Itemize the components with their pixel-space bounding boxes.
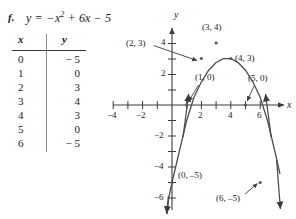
data-point-4-3 [229, 57, 232, 60]
table-row: 4 3 [12, 109, 90, 123]
cell-y: 0 [50, 123, 80, 135]
table-row: 3 4 [12, 95, 90, 109]
cell-y: 4 [50, 95, 80, 107]
xtick-label-minus2: −2 [136, 110, 146, 120]
x-axis [113, 101, 284, 109]
cell-y: 3 [50, 81, 80, 93]
table-header-row: x y [12, 33, 90, 50]
table-row: 2 3 [12, 81, 90, 95]
leading-minus-sign: − [46, 11, 55, 25]
ytick-label-minus2: −2 [154, 130, 164, 140]
minus-sign: − [93, 11, 102, 25]
data-point-1-0 [185, 103, 188, 106]
xtick-label-4: 4 [228, 110, 233, 120]
data-point-0-minus5 [171, 181, 174, 184]
value-table: x y 0 − 5 1 0 2 3 3 4 4 3 [12, 33, 90, 50]
cell-x: 1 [18, 67, 24, 79]
data-point-2-3 [200, 57, 203, 60]
linear-term: 6x [79, 11, 90, 25]
point-label-1-0: (1, 0) [195, 72, 215, 82]
ytick-label-4: 4 [161, 37, 166, 47]
cell-x: 0 [18, 53, 24, 65]
data-point-5-0 [244, 103, 247, 106]
table-row: 0 − 5 [12, 53, 90, 67]
y-axis-label: y [174, 9, 178, 20]
table-body: 0 − 5 1 0 2 3 3 4 4 3 5 0 [12, 53, 90, 151]
point-label-3-4: (3, 4) [202, 22, 222, 32]
cell-x: 3 [18, 95, 24, 107]
table-row: 6 − 5 [12, 137, 90, 151]
point-label-5-0: (5, 0) [248, 73, 268, 83]
column-header-y: y [62, 33, 67, 45]
xtick-label-minus4: −4 [107, 110, 117, 120]
ytick-label-minus6: −6 [154, 192, 164, 202]
ytick-label-minus4: −4 [154, 161, 164, 171]
graph-panel: y x −4 −2 2 4 6 4 2 −2 −4 −6 (2, 3) (3, … [104, 0, 296, 219]
leader-2-3 [154, 46, 198, 61]
table-horizontal-rule [12, 50, 86, 51]
cell-y: 3 [50, 109, 80, 121]
plus-sign: + [67, 11, 76, 25]
cell-x: 5 [18, 123, 24, 135]
cell-x: 2 [18, 81, 24, 93]
xtick-label-6: 6 [257, 110, 262, 120]
cell-y: − 5 [50, 137, 80, 149]
annotation-leaders [154, 46, 258, 195]
data-point-3-4 [215, 41, 218, 44]
point-label-4-3: (4, 3) [235, 53, 255, 63]
x-axis-label: x [287, 99, 291, 110]
equation-lhs: y [26, 11, 31, 25]
cell-y: − 5 [50, 53, 80, 65]
cell-y: 0 [50, 67, 80, 79]
table-row: 1 0 [12, 67, 90, 81]
figure-container: f. y = −x2 + 6x − 5 x y 0 − 5 1 0 2 [0, 0, 296, 219]
point-label-0-minus5: (0, –5) [178, 170, 202, 180]
data-point-6-minus5 [259, 181, 262, 184]
equals-sign: = [34, 11, 43, 25]
xtick-label-2: 2 [198, 110, 203, 120]
exponent: 2 [60, 10, 64, 19]
column-header-x: x [18, 33, 24, 45]
leader-5-0 [247, 86, 254, 101]
ytick-label-2: 2 [161, 68, 166, 78]
table-row: 5 0 [12, 123, 90, 137]
equation: y = −x2 + 6x − 5 [26, 10, 111, 26]
problem-label: f. [8, 11, 14, 23]
parabola-curve [167, 41, 281, 214]
cell-x: 4 [18, 109, 24, 121]
leader-6-minus5 [245, 184, 258, 195]
point-label-2-3: (2, 3) [126, 38, 146, 48]
cell-x: 6 [18, 137, 24, 149]
point-label-6-minus5: (6, –5) [216, 193, 240, 203]
